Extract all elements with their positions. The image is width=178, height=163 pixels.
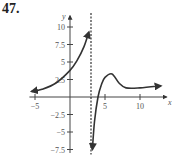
curve-right-branch: [92, 74, 161, 150]
x-tick-label: 10: [136, 102, 144, 111]
axes: xy: [29, 12, 172, 153]
curves: [32, 32, 162, 150]
x-axis-label: x: [167, 98, 172, 107]
y-axis-label: y: [61, 12, 66, 21]
y-tick-label: 7.5: [55, 41, 65, 50]
y-tick-label: −2.5: [50, 111, 65, 120]
y-tick-label: 10: [57, 23, 65, 32]
x-tick-label: −5: [31, 102, 40, 111]
y-tick-label: −7.5: [50, 146, 65, 155]
y-tick-label: −5: [56, 128, 65, 137]
y-tick-label: 5: [61, 58, 65, 67]
function-graph: xy −5510107.552.5−2.5−5−7.5: [0, 0, 178, 163]
x-tick-label: 5: [103, 102, 107, 111]
